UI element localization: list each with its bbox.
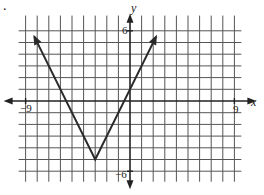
x-max-tick-label: 9 — [233, 103, 239, 115]
axes — [4, 14, 257, 189]
y-max-tick-label: 6 — [122, 24, 128, 36]
x-axis-label: x — [250, 95, 257, 109]
problem-marker: . — [3, 0, 7, 13]
x-axis-arrow-left-icon — [4, 98, 13, 105]
y-axis-arrow-down-icon — [127, 180, 134, 189]
x-min-tick-label: −9 — [20, 102, 32, 114]
y-axis-label: y — [130, 1, 137, 15]
y-axis-arrow-up-icon — [127, 14, 134, 23]
y-min-tick-label: −6 — [115, 168, 127, 180]
graph-plot: . y x −9 9 6 −6 — [0, 0, 264, 195]
